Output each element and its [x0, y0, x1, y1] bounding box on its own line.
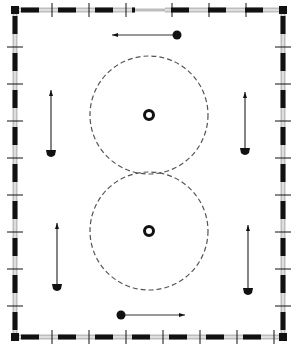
horse-marker-icon [173, 31, 182, 40]
arrow-right-lower [243, 225, 253, 295]
center-markers [145, 111, 154, 236]
arrowhead-icon [179, 313, 185, 317]
horse-marker-icon [46, 150, 56, 157]
fence-corner [279, 333, 287, 341]
arrow-right-upper [240, 92, 250, 155]
arrow-left-lower [52, 223, 62, 291]
fence-corner [11, 333, 19, 341]
arrowhead-icon [112, 33, 118, 37]
top-center-marker [145, 111, 154, 120]
horse-marker-icon [240, 148, 250, 155]
fence-corner [279, 6, 287, 14]
arrow-top [112, 31, 182, 40]
figure-eight-diagram-canvas [0, 0, 299, 352]
fence-corner [11, 6, 19, 14]
arrowhead-icon [55, 223, 59, 229]
arrowhead-icon [243, 92, 247, 98]
top-circle [90, 56, 208, 174]
arrow-bottom [117, 311, 186, 320]
bottom-circle [90, 172, 208, 290]
arrow-left-upper [46, 90, 56, 157]
direction-arrows [46, 31, 253, 320]
figure-eight-circles [90, 56, 208, 290]
horse-marker-icon [117, 311, 126, 320]
horse-marker-icon [52, 284, 62, 291]
arrowhead-icon [246, 225, 250, 231]
arena-diagram [0, 0, 299, 352]
horse-marker-icon [243, 288, 253, 295]
bottom-center-marker [145, 227, 154, 236]
arrowhead-icon [49, 90, 53, 96]
